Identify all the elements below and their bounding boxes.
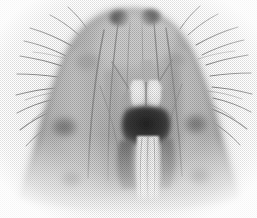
micrograph-canvas bbox=[0, 0, 257, 218]
specimen-micrograph bbox=[0, 0, 257, 218]
bottom-fade bbox=[0, 0, 257, 218]
